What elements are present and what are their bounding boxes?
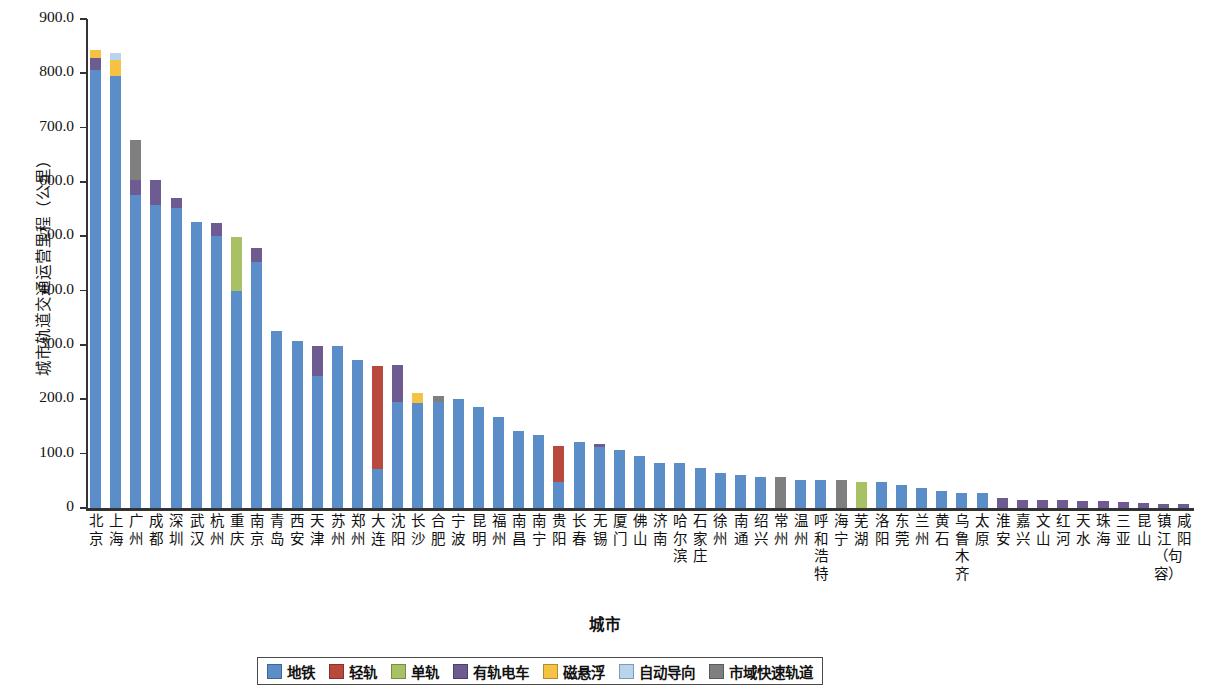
bar-column[interactable] [392,365,403,508]
bar-column[interactable] [211,223,222,508]
x-axis-tick-label: 石家庄 [691,513,709,566]
bar-column[interactable] [1158,504,1169,508]
bar-column[interactable] [453,399,464,508]
legend-swatch [543,664,558,679]
legend-item[interactable]: 磁悬浮 [543,661,605,682]
legend-label: 单轨 [411,661,439,682]
x-axis-tick-label: 珠海 [1094,513,1112,548]
bar-column[interactable] [654,463,665,508]
legend-item[interactable]: 市域快速轨道 [709,661,813,682]
x-axis-tick-label: 兰州 [913,513,931,548]
bar-column[interactable] [493,417,504,508]
bar-column[interactable] [90,50,101,508]
bar-column[interactable] [533,435,544,508]
bar-segment [130,195,141,508]
bar-column[interactable] [795,480,806,508]
x-axis-line [86,508,1194,511]
x-axis-tick-label: 上海 [107,513,125,548]
bar-segment [130,140,141,180]
bar-column[interactable] [876,482,887,508]
bar-column[interactable] [1138,503,1149,508]
bar-column[interactable] [1057,500,1068,508]
x-axis-tick-label: 济南 [651,513,669,548]
bar-column[interactable] [634,456,645,508]
bar-column[interactable] [312,346,323,508]
bar-segment [110,60,121,76]
bar-column[interactable] [513,431,524,508]
bar-segment [634,456,645,508]
bar-segment [533,435,544,508]
bar-column[interactable] [1178,504,1189,508]
bar-column[interactable] [936,491,947,508]
bar-column[interactable] [130,140,141,508]
x-axis-tick-label: 乌鲁木齐 [953,513,971,583]
bar-column[interactable] [292,341,303,508]
bar-column[interactable] [896,485,907,508]
bar-column[interactable] [775,477,786,509]
bar-column[interactable] [150,180,161,508]
bar-column[interactable] [1077,501,1088,508]
bar-segment [292,341,303,508]
legend-item[interactable]: 地铁 [267,661,315,682]
x-axis-tick-label: 芜湖 [852,513,870,548]
bar-column[interactable] [977,493,988,508]
y-axis-tick-label: 500.0 [0,225,74,243]
bar-segment [876,482,887,508]
x-axis-tick-label: 郑州 [348,513,366,548]
plot-area [86,19,1194,508]
bar-column[interactable] [836,480,847,508]
legend-item[interactable]: 有轨电车 [453,661,529,682]
x-axis-tick-label: 北京 [87,513,105,548]
bar-column[interactable] [614,450,625,508]
bar-column[interactable] [251,248,262,508]
bar-column[interactable] [553,446,564,508]
bar-column[interactable] [1037,500,1048,508]
x-axis-tick-label: 淮安 [993,513,1011,548]
legend-item[interactable]: 自动导向 [619,661,695,682]
bar-column[interactable] [433,396,444,508]
bar-column[interactable] [674,463,685,508]
bar-column[interactable] [271,331,282,508]
bar-segment [473,407,484,508]
bar-column[interactable] [110,53,121,508]
bar-column[interactable] [916,488,927,508]
bar-column[interactable] [715,473,726,508]
bar-column[interactable] [191,222,202,508]
legend-item[interactable]: 单轨 [391,661,439,682]
bar-segment [1158,504,1169,508]
bar-column[interactable] [1098,501,1109,508]
legend-item[interactable]: 轻轨 [329,661,377,682]
x-axis-tick-label: 咸阳 [1175,513,1193,548]
bar-column[interactable] [231,237,242,508]
bar-segment [191,222,202,508]
bar-column[interactable] [997,498,1008,508]
bar-column[interactable] [594,444,605,508]
y-axis-tick-label: 200.0 [0,388,74,406]
bar-column[interactable] [352,360,363,508]
bar-column[interactable] [735,475,746,508]
bar-column[interactable] [473,407,484,508]
bar-segment [171,198,182,208]
bar-column[interactable] [332,346,343,508]
legend-label: 有轨电车 [473,661,529,682]
bar-column[interactable] [815,480,826,508]
bar-column[interactable] [856,482,867,508]
y-axis-tick-label: 0 [0,497,74,515]
bar-column[interactable] [372,366,383,508]
bar-column[interactable] [1118,502,1129,508]
bar-segment [372,366,383,469]
bar-column[interactable] [574,442,585,508]
x-axis-tick-label: 重庆 [228,513,246,548]
bar-segment [90,50,101,58]
bar-segment [392,402,403,508]
bar-segment [412,393,423,403]
x-axis-tick-label: 天津 [308,513,326,548]
legend-label: 市域快速轨道 [729,661,813,682]
bar-column[interactable] [956,493,967,508]
bar-column[interactable] [755,477,766,509]
x-axis-tick-label: 大连 [369,513,387,548]
bar-column[interactable] [1017,500,1028,508]
bar-column[interactable] [171,198,182,508]
bar-column[interactable] [412,393,423,508]
bar-column[interactable] [695,468,706,508]
